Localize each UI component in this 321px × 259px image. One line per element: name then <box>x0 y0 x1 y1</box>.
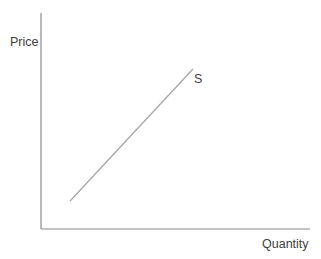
x-axis-label: Quantity <box>262 238 309 251</box>
y-axis-label: Price <box>10 36 38 49</box>
supply-curve-label: S <box>194 73 202 86</box>
supply-curve <box>70 69 193 201</box>
supply-diagram <box>0 0 321 259</box>
